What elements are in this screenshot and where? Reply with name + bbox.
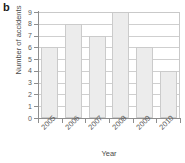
y-tick-2 <box>34 94 38 95</box>
x-tick-4 <box>133 119 134 123</box>
y-tick-label-7: 7 <box>12 32 32 39</box>
x-tick-5 <box>156 119 157 123</box>
bar-2006 <box>65 24 82 118</box>
panel-letter-label: b <box>3 1 10 13</box>
y-tick-label-0: 0 <box>12 115 32 122</box>
bar-2005 <box>41 47 58 118</box>
y-tick-label-9: 9 <box>12 9 32 16</box>
bar-slot-2007 <box>85 12 109 118</box>
bar-slot-2006 <box>62 12 86 118</box>
y-tick-4 <box>34 71 38 72</box>
bar-2008 <box>112 12 129 118</box>
figure-panel-b: b Number of accidents 0123456789 2005200… <box>0 0 185 163</box>
y-tick-label-3: 3 <box>12 79 32 86</box>
bar-2007 <box>89 36 106 118</box>
bar-slot-2008 <box>109 12 133 118</box>
y-tick-3 <box>34 83 38 84</box>
y-tick-label-8: 8 <box>12 20 32 27</box>
y-tick-label-5: 5 <box>12 56 32 63</box>
bar-2009 <box>136 47 153 118</box>
x-axis-title: Year <box>38 150 180 158</box>
bar-slot-2009 <box>133 12 157 118</box>
y-tick-label-6: 6 <box>12 44 32 51</box>
bar-series <box>38 12 180 118</box>
x-tick-2 <box>85 119 86 123</box>
bar-slot-2010 <box>156 12 180 118</box>
y-tick-9 <box>34 12 38 13</box>
y-tick-7 <box>34 36 38 37</box>
x-tick-0 <box>38 119 39 123</box>
y-tick-label-4: 4 <box>12 67 32 74</box>
x-tick-1 <box>62 119 63 123</box>
y-axis-line <box>38 11 39 119</box>
bar-2010 <box>160 71 177 118</box>
y-tick-1 <box>34 106 38 107</box>
y-tick-6 <box>34 47 38 48</box>
y-tick-5 <box>34 59 38 60</box>
plot-area <box>38 12 180 118</box>
y-tick-8 <box>34 24 38 25</box>
y-tick-label-2: 2 <box>12 91 32 98</box>
y-tick-label-1: 1 <box>12 103 32 110</box>
x-tick-3 <box>109 119 110 123</box>
bar-slot-2005 <box>38 12 62 118</box>
x-tick-6 <box>180 119 181 123</box>
